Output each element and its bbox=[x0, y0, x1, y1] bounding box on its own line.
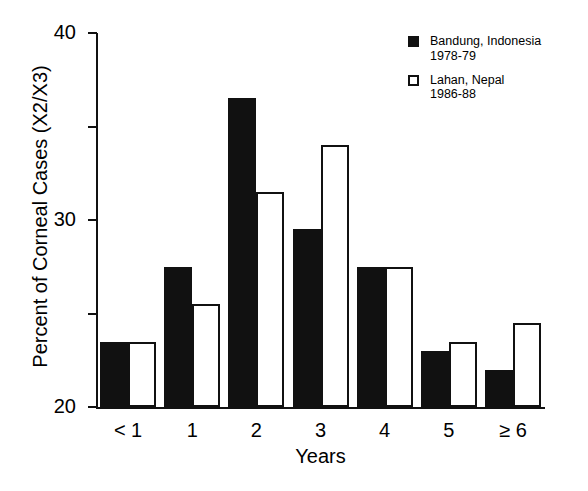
bar-lahan bbox=[128, 342, 156, 407]
bar-group bbox=[293, 33, 349, 407]
y-tick-label: 20 bbox=[54, 396, 76, 416]
bar-lahan bbox=[449, 342, 477, 407]
x-tick-label: 3 bbox=[315, 419, 326, 442]
bar-bandung bbox=[485, 370, 513, 407]
x-tick-label: 5 bbox=[443, 419, 454, 442]
bar-bandung bbox=[228, 98, 256, 407]
legend-label: Lahan, Nepal bbox=[430, 73, 541, 88]
bar-bandung bbox=[293, 229, 321, 407]
bar-bandung bbox=[164, 267, 192, 407]
bar-bandung bbox=[421, 351, 449, 407]
bar-group bbox=[164, 33, 220, 407]
bar-group bbox=[228, 33, 284, 407]
open-square-icon bbox=[408, 75, 419, 86]
bar-bandung bbox=[100, 342, 128, 407]
legend-sublabel: 1986-88 bbox=[430, 87, 541, 102]
x-tick-label: 1 bbox=[187, 419, 198, 442]
x-tick-label: 2 bbox=[251, 419, 262, 442]
chart-legend: Bandung, Indonesia1978-79Lahan, Nepal198… bbox=[408, 34, 541, 111]
bar-lahan bbox=[513, 323, 541, 407]
x-tick-label: ≥ 6 bbox=[499, 419, 527, 442]
y-axis-title: Percent of Corneal Cases (X2/X3) bbox=[29, 17, 52, 417]
legend-sublabel: 1978-79 bbox=[430, 49, 541, 64]
legend-label: Bandung, Indonesia bbox=[430, 34, 541, 49]
bar-lahan bbox=[192, 304, 220, 407]
bar-group bbox=[100, 33, 156, 407]
bar-chart-figure: Percent of Corneal Cases (X2/X3) 0102030… bbox=[0, 0, 588, 491]
x-tick-label: < 1 bbox=[114, 419, 142, 442]
legend-entry: Lahan, Nepal1986-88 bbox=[408, 73, 541, 103]
x-axis-title: Years bbox=[96, 445, 545, 468]
y-tick-label: 40 bbox=[54, 22, 76, 42]
bar-bandung bbox=[357, 267, 385, 407]
bar-lahan bbox=[256, 192, 284, 407]
filled-square-icon bbox=[408, 36, 419, 47]
bar-group bbox=[357, 33, 413, 407]
bar-lahan bbox=[321, 145, 349, 407]
y-tick-label: 30 bbox=[54, 209, 76, 229]
bar-lahan bbox=[385, 267, 413, 407]
x-tick-label: 4 bbox=[379, 419, 390, 442]
legend-entry: Bandung, Indonesia1978-79 bbox=[408, 34, 541, 64]
